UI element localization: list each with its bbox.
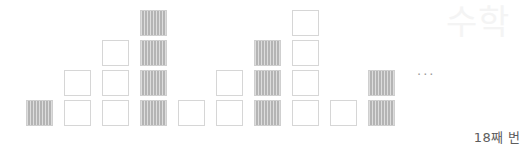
filled-square (26, 100, 53, 126)
watermark-text: 수학 (443, 4, 513, 116)
empty-square (102, 40, 129, 66)
square-column (178, 100, 205, 126)
sequence-caption: 18째 번 (474, 130, 521, 146)
square-column (292, 10, 319, 126)
empty-square (292, 40, 319, 66)
filled-square (140, 70, 167, 96)
filled-square (254, 40, 281, 66)
square-column (102, 40, 129, 126)
ellipsis-indicator: ··· (417, 68, 435, 81)
square-column (64, 70, 91, 126)
empty-square (102, 70, 129, 96)
square-column (26, 100, 53, 126)
empty-square (178, 100, 205, 126)
filled-square (368, 100, 395, 126)
filled-square (140, 40, 167, 66)
filled-square (140, 100, 167, 126)
empty-square (64, 100, 91, 126)
filled-square (254, 100, 281, 126)
square-column (368, 70, 395, 126)
filled-square (254, 70, 281, 96)
empty-square (330, 100, 357, 126)
square-column (140, 10, 167, 126)
square-pattern-figure: 수학 ··· 18째 번 (0, 0, 531, 152)
filled-square (140, 10, 167, 36)
square-column (254, 40, 281, 126)
empty-square (292, 70, 319, 96)
square-columns-group (26, 10, 395, 126)
empty-square (216, 100, 243, 126)
square-column (330, 100, 357, 126)
square-column (216, 70, 243, 126)
empty-square (292, 100, 319, 126)
empty-square (216, 70, 243, 96)
filled-square (368, 70, 395, 96)
empty-square (64, 70, 91, 96)
empty-square (102, 100, 129, 126)
empty-square (292, 10, 319, 36)
